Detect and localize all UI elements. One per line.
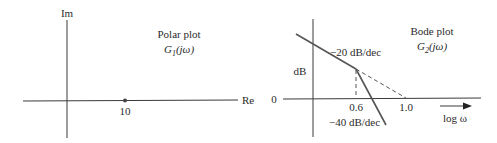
diagram-canvas: Im Re 10 Polar plot G1(jω) 0 dB 0.6 1.0 …	[0, 0, 497, 143]
bode-plot: 0 dB 0.6 1.0 −20 dB/dec −40 dB/dec log ω…	[271, 19, 481, 137]
log-omega-label: log ω	[443, 112, 467, 124]
arrow-right-icon	[463, 103, 472, 110]
bode-function-label: G2(jω)	[417, 40, 447, 55]
slope2-label: −40 dB/dec	[329, 116, 380, 128]
corner-label: 0.6	[349, 101, 363, 113]
bode-title: Bode plot	[410, 25, 453, 37]
point-marker	[123, 99, 127, 103]
polar-function-label: G1(jω)	[164, 43, 194, 58]
crossing-label: 1.0	[399, 101, 413, 113]
re-axis	[23, 100, 238, 101]
zero-label: 0	[271, 93, 277, 105]
polar-title: Polar plot	[157, 28, 200, 40]
re-axis-label: Re	[242, 94, 254, 106]
im-axis-label: Im	[61, 7, 74, 19]
polar-plot: Im Re 10 Polar plot G1(jω)	[23, 7, 254, 138]
point-label: 10	[120, 105, 132, 117]
slope1-label: −20 dB/dec	[330, 46, 381, 58]
db-axis-label: dB	[294, 65, 307, 77]
